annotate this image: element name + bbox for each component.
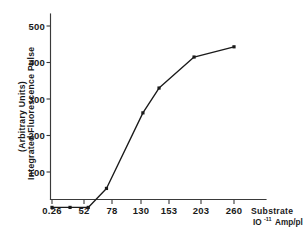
x-tick-label-260: 260 xyxy=(226,205,242,216)
chart-figure: 500 400 300 200 100 0.26 52 78 130 153 2… xyxy=(0,0,308,245)
data-point xyxy=(105,187,108,190)
data-point xyxy=(141,111,144,114)
data-point xyxy=(157,86,160,89)
x-axis-title-line2: IO -11 Amp/pl xyxy=(253,216,303,227)
x-tick-label-130: 130 xyxy=(133,205,149,216)
x-tick-label-153: 153 xyxy=(161,205,177,216)
x-axis-unit-rest: Amp/pl xyxy=(275,218,303,227)
data-point xyxy=(87,206,90,209)
data-point xyxy=(68,206,71,209)
data-point xyxy=(192,55,195,58)
y-axis-title-line2: Integrated Fluorescence Pulse xyxy=(26,47,36,180)
y-tick-label-500: 500 xyxy=(29,21,45,32)
data-series-markers xyxy=(50,45,235,209)
x-axis-title-line1: Substrate xyxy=(251,206,293,216)
x-axis-ticks xyxy=(52,200,234,205)
data-series-line xyxy=(52,47,234,208)
x-axis-unit-base: IO xyxy=(253,218,262,227)
x-tick-label-78: 78 xyxy=(107,205,118,216)
data-point xyxy=(50,206,53,209)
x-tick-label-203: 203 xyxy=(193,205,209,216)
x-axis-unit-exponent: -11 xyxy=(264,216,272,222)
y-axis-ticks xyxy=(47,26,51,172)
line-chart: 500 400 300 200 100 0.26 52 78 130 153 2… xyxy=(0,0,308,245)
data-point xyxy=(232,45,235,48)
